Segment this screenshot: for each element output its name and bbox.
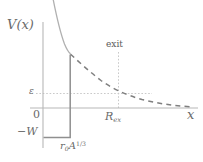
- coulomb-dashed-tail: [71, 54, 191, 107]
- y-axis-label: V(x): [7, 18, 34, 31]
- potential-energy-figure: V(x) x 0 ε −W r0A1/3 Rex exit: [0, 0, 203, 162]
- origin-label: 0: [33, 109, 40, 120]
- epsilon-level-label: ε: [29, 87, 34, 96]
- square-well-outline: [44, 55, 71, 138]
- nuclear-radius-mid: A: [69, 140, 76, 151]
- well-depth-label: −W: [17, 126, 38, 137]
- coulomb-solid-branch: [53, 0, 71, 54]
- exit-marker-label: exit: [106, 40, 123, 49]
- exit-radius-subscript: ex: [113, 116, 121, 124]
- nuclear-radius-exponent: 1/3: [76, 140, 86, 147]
- x-axis-label: x: [187, 108, 194, 121]
- exit-radius-label: Rex: [105, 111, 121, 124]
- nuclear-radius-label: r0A1/3: [60, 141, 86, 152]
